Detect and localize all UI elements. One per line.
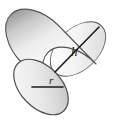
cylinder-diagram-svg: h r [0,0,117,126]
cylinder-figure: h r [0,0,117,126]
radius-label: r [49,74,54,86]
height-label: h [71,44,78,59]
